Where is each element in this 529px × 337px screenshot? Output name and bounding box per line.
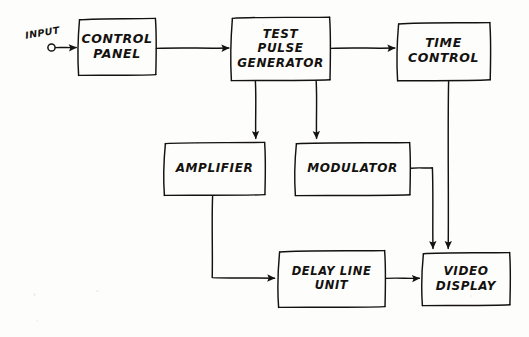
- block-amplifier: [164, 142, 266, 195]
- input-terminal-circle: [48, 44, 55, 51]
- block-diagram-canvas: INPUT CONTROL PANEL TEST PULSE GENERATOR…: [0, 0, 529, 337]
- block-control-panel: [78, 18, 156, 75]
- block-time-control: [397, 23, 491, 81]
- block-delay-line-unit: [278, 251, 385, 308]
- block-test-pulse-generator: [231, 17, 331, 80]
- connector-amplifier-to-delay-line-unit: [212, 196, 274, 278]
- diagram-strokes: [0, 0, 529, 337]
- block-video-display: [422, 253, 511, 306]
- connector-modulator-to-video-display: [411, 168, 433, 249]
- block-modulator: [295, 143, 411, 196]
